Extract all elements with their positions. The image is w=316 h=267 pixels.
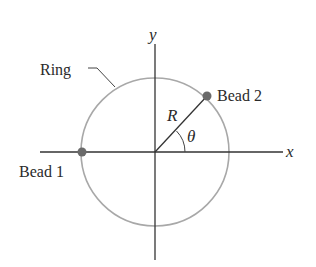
bead-2-label: Bead 2: [217, 87, 262, 104]
ring-bead-diagram: y x Ring Bead 2 Bead 1 R θ: [0, 0, 316, 267]
angle-arc: [177, 131, 186, 152]
radius-label: R: [166, 106, 178, 125]
radius-line: [155, 96, 207, 152]
x-axis-label: x: [285, 142, 294, 161]
angle-label: θ: [187, 127, 195, 146]
bead-1-label: Bead 1: [19, 163, 64, 180]
bead-1: [78, 148, 87, 157]
ring-label: Ring: [40, 61, 71, 79]
bead-2: [203, 92, 212, 101]
ring-leader-line: [88, 68, 115, 87]
y-axis-label: y: [147, 25, 157, 44]
